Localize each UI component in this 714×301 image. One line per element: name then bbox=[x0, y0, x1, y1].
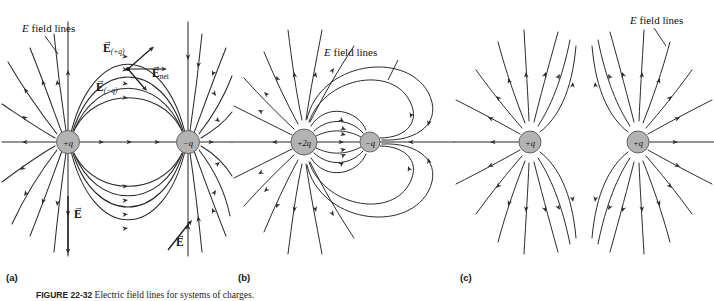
vector-label-e-net: E→net bbox=[152, 63, 169, 81]
panel-c-diagram: +q +q bbox=[454, 0, 714, 262]
e-field-lines-label-b: E field lines bbox=[324, 46, 377, 58]
leader-line-e-field-label-c bbox=[654, 28, 666, 46]
charge-label-positive-a: +q bbox=[63, 138, 74, 148]
vector-symbol-e-lower-left: E→ bbox=[74, 208, 82, 220]
leader-line-e-field-label-b bbox=[388, 60, 398, 80]
charge-label-right-c: +q bbox=[633, 138, 644, 148]
panel-b-diagram: +2q −q bbox=[232, 0, 454, 262]
charge-label-left-c: +q bbox=[525, 138, 536, 148]
vector-label-e-lower-left: E→ bbox=[74, 204, 82, 222]
vector-subscript-net: net bbox=[160, 72, 169, 81]
vector-label-e-lower-right: E→ bbox=[176, 232, 184, 250]
vector-symbol-e-minus-q: E→ bbox=[96, 81, 104, 93]
vector-symbol-e-lower-right: E→ bbox=[176, 236, 184, 248]
vector-label-e-minus-q: E→(−q) bbox=[96, 77, 117, 95]
charge-label-2q-b: +2q bbox=[297, 138, 312, 148]
vector-symbol-e-net: E→ bbox=[152, 67, 160, 79]
e-italic-b: E bbox=[324, 46, 331, 58]
charge-label-minus-q-b: −q bbox=[365, 138, 376, 148]
vector-line-e-minus-q bbox=[128, 69, 145, 89]
charge-negative-q-b: −q bbox=[360, 132, 380, 152]
vector-subscript-minus-q: (−q) bbox=[104, 86, 118, 95]
charge-negative-a: −q bbox=[177, 131, 200, 154]
e-italic-a: E bbox=[22, 22, 29, 34]
panel-b-unequal-charges: +2q −q E field lines (b) bbox=[232, 0, 454, 260]
panel-b-sublabel: (b) bbox=[238, 272, 250, 283]
charge-positive-2q-b: +2q bbox=[291, 129, 317, 155]
figure-caption: FIGURE 22-32 Electric field lines for sy… bbox=[36, 290, 254, 301]
panel-a-dipole: +q −q bbox=[0, 0, 232, 260]
e-field-lines-text-a: field lines bbox=[31, 22, 75, 34]
charge-positive-right-c: +q bbox=[627, 131, 649, 153]
leader-line-e-field-label-a bbox=[45, 36, 58, 54]
vector-e-lower-left-a bbox=[66, 196, 71, 254]
figure-caption-text: Electric field lines for systems of char… bbox=[95, 290, 254, 300]
figure-caption-number: FIGURE 22-32 bbox=[36, 290, 92, 300]
e-italic-c: E bbox=[630, 14, 637, 26]
e-field-lines-text-c: field lines bbox=[639, 14, 683, 26]
vector-label-e-plus-q: E→(+q) bbox=[103, 38, 124, 56]
charge-label-negative-a: −q bbox=[183, 138, 194, 148]
vector-symbol-e-plus-q: E→ bbox=[103, 42, 111, 54]
e-field-lines-label-c: E field lines bbox=[630, 14, 683, 26]
charge-positive-left-c: +q bbox=[519, 131, 541, 153]
panel-c-sublabel: (c) bbox=[460, 272, 472, 283]
charge-positive-a: +q bbox=[57, 131, 80, 154]
panel-a-sublabel: (a) bbox=[6, 272, 18, 283]
figure-electric-field-lines: +q −q bbox=[0, 0, 714, 301]
e-field-lines-label-a: E field lines bbox=[22, 22, 75, 34]
panel-c-like-charges: +q +q E field lines (c) bbox=[454, 0, 714, 260]
e-field-lines-text-b: field lines bbox=[333, 46, 377, 58]
vector-subscript-plus-q: (+q) bbox=[111, 47, 125, 56]
